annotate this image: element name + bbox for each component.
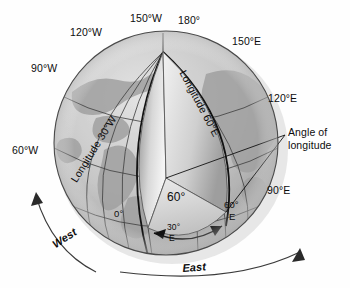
meridian-label-150e: 150°E [232, 35, 261, 47]
meridian-label-120w: 120°W [70, 26, 102, 38]
zero-meridian-label: 0° [114, 208, 123, 219]
meridian-label-60w: 60°W [12, 144, 38, 156]
callout-line2: longitude [288, 139, 332, 151]
sixty-east-letter-label: E [229, 212, 235, 222]
thirty-east-letter-label: E [169, 233, 175, 243]
west-arrowhead [31, 192, 43, 206]
meridian-label-90e: 90°E [267, 184, 290, 196]
globe-vignette [54, 31, 278, 255]
angle-value-label: 60° [167, 190, 185, 204]
east-rotation-label: East [182, 260, 206, 274]
longitude-diagram: 150°W 120°W 90°W 60°W 180° 150°E 120°E 9… [0, 0, 350, 288]
callout-line1: Angle of [288, 126, 327, 138]
meridian-label-90w: 90°W [31, 62, 57, 74]
thirty-east-deg-label: 30° [167, 222, 180, 232]
meridian-label-120e: 120°E [268, 92, 297, 104]
sixty-east-deg-label: 60° [224, 200, 239, 210]
meridian-label-150w: 150°W [130, 12, 162, 24]
meridian-label-180: 180° [178, 14, 200, 26]
